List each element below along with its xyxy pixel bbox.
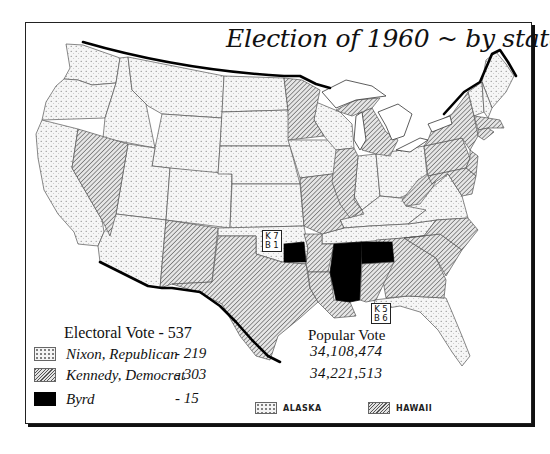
territory-hawaii: HAWAII <box>368 402 432 414</box>
state-wyoming <box>152 114 222 174</box>
us-election-map <box>0 0 550 454</box>
state-connecticut-ri <box>478 128 494 140</box>
legend-count-nixon: - 219 <box>175 345 206 362</box>
popular-vote-nixon: 34,108,474 <box>310 343 383 360</box>
hatched-pattern-swatch <box>34 368 56 382</box>
state-alabama-byrd <box>362 242 394 264</box>
state-oregon <box>42 79 116 120</box>
state-colorado <box>166 168 232 228</box>
legend-label-nixon: Nixon, Republican <box>66 346 178 363</box>
state-mississippi <box>330 242 362 302</box>
legend-count-byrd: - 15 <box>175 390 199 407</box>
state-kansas <box>230 184 304 228</box>
ok-b-value: 1 <box>272 241 280 250</box>
dotted-pattern-swatch <box>34 347 56 361</box>
territory-label-hawaii: HAWAII <box>396 404 432 413</box>
state-new-mexico <box>160 220 218 288</box>
legend-label-byrd: Byrd <box>66 391 95 408</box>
al-b-value: 6 <box>381 314 389 323</box>
state-oklahoma-byrd <box>284 242 306 262</box>
state-south-dakota <box>220 110 290 146</box>
popular-vote-heading: Popular Vote <box>308 327 385 344</box>
state-north-dakota <box>222 76 288 112</box>
territory-label-alaska: ALASKA <box>283 404 322 413</box>
alabama-split-box: K 5 B 6 <box>371 303 391 324</box>
black-swatch <box>34 392 56 406</box>
legend-item-nixon: Nixon, Republican <box>34 345 178 363</box>
alaska-dotted-swatch <box>255 402 277 414</box>
oklahoma-split-box: K 7 B 1 <box>262 230 282 252</box>
map-title: Election of 1960 ~ by states <box>226 24 526 53</box>
state-massachusetts <box>474 116 504 130</box>
legend-item-byrd: Byrd <box>34 390 95 408</box>
al-b-label: B <box>373 314 381 323</box>
legend-item-kennedy: Kennedy, Democrat <box>34 366 185 384</box>
ok-b-label: B <box>264 241 272 250</box>
legend-heading: Electoral Vote - 537 <box>64 324 192 342</box>
legend-label-kennedy: Kennedy, Democrat <box>66 367 185 384</box>
territory-alaska: ALASKA <box>255 402 322 414</box>
popular-vote-kennedy: 34,221,513 <box>310 365 383 382</box>
hawaii-hatched-swatch <box>368 402 390 414</box>
legend-count-kennedy: - 303 <box>175 366 206 383</box>
